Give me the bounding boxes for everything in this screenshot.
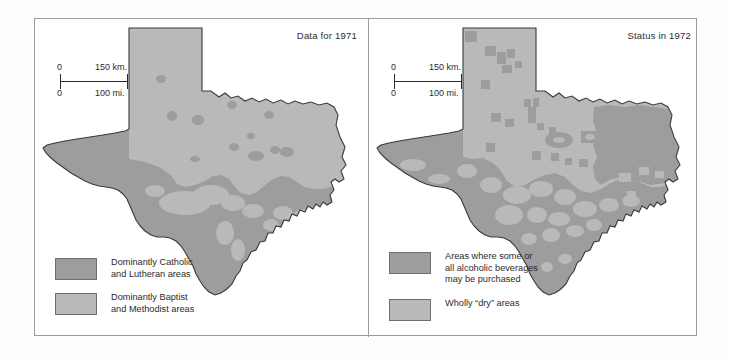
scale-mi-label: 100 mi.	[95, 88, 125, 98]
legend-label-catholic-lutheran: Dominantly Catholic and Lutheran areas	[111, 257, 193, 280]
region-wet-east	[593, 105, 680, 185]
legend-item: Dominantly Baptist and Methodist areas	[55, 292, 194, 315]
scale-km-label: 150 km.	[429, 62, 461, 72]
legend-label-alcohol-available: Areas where some or all alcoholic bevera…	[445, 251, 538, 286]
scale-tick-left	[394, 74, 395, 89]
map-panel-1971: Data for 1971 0 150 km. 0 100 mi. Domina…	[35, 19, 368, 337]
scale-tick-right	[461, 74, 462, 89]
scale-tick-left	[60, 74, 61, 89]
legend-swatch-dark	[389, 252, 431, 274]
scale-bar-left: 0 150 km. 0 100 mi.	[49, 60, 169, 106]
scale-zero-bottom: 0	[391, 88, 396, 98]
legend-swatch-light	[55, 293, 97, 315]
scale-line	[394, 81, 461, 82]
scale-tick-right	[127, 74, 128, 89]
scale-km-label: 150 km.	[95, 62, 127, 72]
scale-zero-top: 0	[391, 62, 396, 72]
panel-title-1971: Data for 1971	[297, 30, 357, 41]
scale-bar-right: 0 150 km. 0 100 mi.	[383, 60, 503, 106]
figure-frame: Data for 1971 0 150 km. 0 100 mi. Domina…	[34, 18, 697, 336]
scale-line	[60, 81, 127, 82]
legend-item: Areas where some or all alcoholic bevera…	[389, 251, 538, 286]
legend-item: Dominantly Catholic and Lutheran areas	[55, 257, 194, 280]
scale-mi-label: 100 mi.	[429, 88, 459, 98]
legend-label-dry-areas: Wholly “dry” areas	[445, 298, 520, 310]
legend-1971: Dominantly Catholic and Lutheran areas D…	[55, 257, 194, 327]
legend-1972: Areas where some or all alcoholic bevera…	[389, 251, 538, 333]
scale-zero-bottom: 0	[57, 88, 62, 98]
panel-title-1972: Status in 1972	[627, 30, 691, 41]
legend-swatch-dark	[55, 258, 97, 280]
figure-map-pair: Data for 1971 0 150 km. 0 100 mi. Domina…	[0, 0, 729, 358]
legend-item: Wholly “dry” areas	[389, 298, 538, 321]
legend-label-baptist-methodist: Dominantly Baptist and Methodist areas	[111, 292, 194, 315]
map-panel-1972: Status in 1972 0 150 km. 0 100 mi. Areas…	[369, 19, 702, 337]
scale-zero-top: 0	[57, 62, 62, 72]
legend-swatch-light	[389, 299, 431, 321]
